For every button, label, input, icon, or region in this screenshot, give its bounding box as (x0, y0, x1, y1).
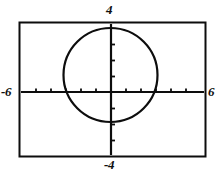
graphing-calculator-figure: 4 -4 -6 6 (0, 0, 218, 172)
screen-frame (20, 23, 206, 157)
plot-area (0, 0, 218, 172)
